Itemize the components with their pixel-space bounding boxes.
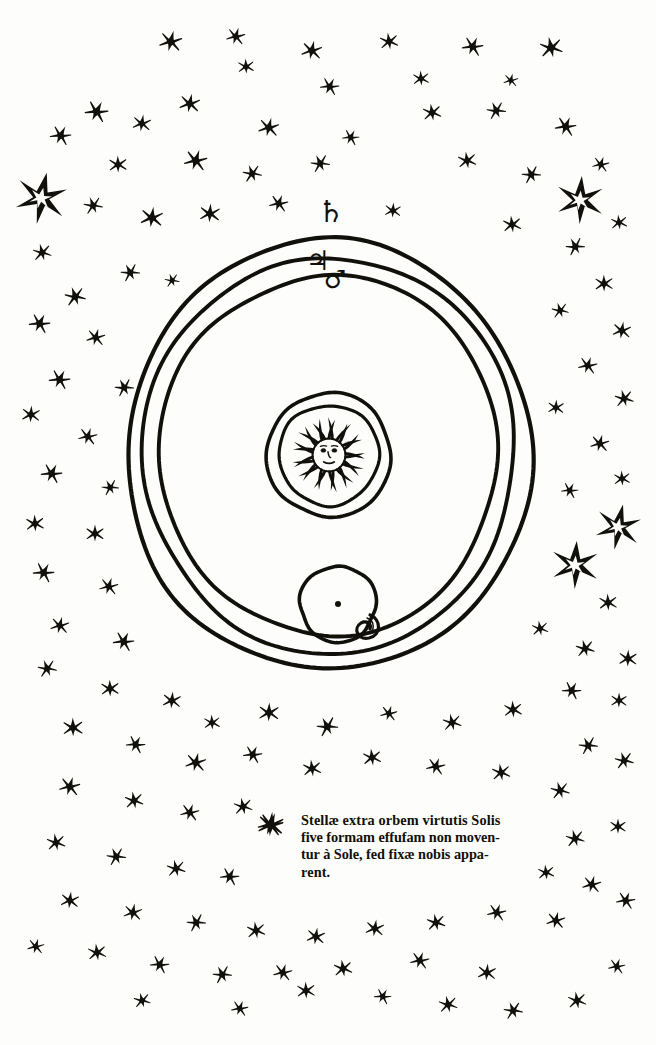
saturn-symbol: ♄	[318, 194, 345, 229]
star-small	[591, 154, 610, 173]
star-small	[211, 963, 234, 986]
star-small	[319, 75, 342, 98]
diagram-canvas: ♄♃♂	[0, 0, 656, 1045]
star-small	[611, 213, 628, 230]
star-small	[413, 70, 429, 86]
star-small	[204, 714, 220, 730]
star-small	[457, 150, 476, 169]
star-small	[549, 779, 570, 800]
star-small	[309, 152, 332, 175]
star-small	[133, 991, 152, 1010]
caption-line-2: five formam effufam non moven-	[301, 829, 537, 846]
star-small	[123, 902, 143, 922]
star-small	[438, 994, 458, 1014]
star-small	[163, 691, 181, 710]
star-small	[87, 942, 106, 961]
star-small	[550, 300, 569, 319]
star-small	[612, 320, 631, 340]
star-small	[567, 990, 587, 1010]
star-small	[230, 998, 250, 1018]
star-small	[185, 751, 208, 774]
star-small	[607, 956, 626, 975]
star-small	[619, 649, 636, 667]
star-small	[98, 575, 119, 596]
star-small	[503, 214, 522, 233]
star-small	[297, 981, 315, 999]
caption-text: Stellæ extra orbem virtutis Solis five f…	[301, 812, 537, 881]
star-small	[100, 477, 120, 497]
star-small	[132, 113, 151, 132]
star-small	[46, 832, 66, 852]
star-small	[219, 865, 242, 888]
star-small	[461, 33, 486, 58]
star-small	[26, 514, 44, 532]
star-small	[184, 910, 207, 933]
star-small	[599, 593, 617, 611]
star-small	[425, 755, 447, 777]
star-small	[478, 963, 496, 982]
orbit-jupiter	[142, 258, 514, 654]
star-small	[158, 28, 183, 53]
star-small	[268, 192, 290, 214]
star-small	[520, 162, 543, 185]
star-large	[592, 500, 645, 554]
star-small	[27, 937, 46, 956]
star-small	[32, 242, 53, 263]
star-small	[105, 845, 128, 868]
star-small	[124, 790, 144, 810]
planet-symbol-labels: ♄♃♂	[306, 194, 346, 294]
star-small	[565, 827, 586, 848]
star-small	[306, 926, 325, 946]
star-small	[486, 901, 508, 923]
star-small	[39, 460, 64, 486]
earth-center-dot	[335, 601, 341, 607]
star-small	[577, 354, 599, 376]
star-small	[577, 734, 600, 757]
planetary-orbit-circles	[128, 237, 533, 668]
star-small	[365, 918, 384, 937]
star-small	[61, 890, 80, 909]
star-small	[611, 692, 626, 707]
star-small	[341, 127, 361, 147]
star-small	[595, 274, 612, 291]
star-small	[50, 615, 71, 636]
star-small	[47, 366, 72, 392]
star-small	[83, 97, 111, 125]
star-large	[555, 174, 604, 225]
star-small	[124, 732, 147, 755]
star-small	[101, 679, 118, 697]
star-small	[63, 284, 87, 308]
star-small	[426, 912, 446, 932]
star-small	[77, 425, 99, 447]
star-small	[22, 405, 40, 423]
cosmological-plate: ♄♃♂ Stellæ extra orbem virtutis Solis fi…	[0, 0, 656, 1045]
star-small	[582, 874, 603, 895]
star-small	[560, 678, 583, 701]
star-small	[548, 399, 564, 415]
star-small	[166, 858, 186, 879]
star-small	[200, 203, 220, 223]
sun-figure	[266, 392, 391, 517]
star-small	[614, 470, 630, 486]
star-small	[87, 524, 104, 541]
star-small	[363, 747, 382, 766]
star-small	[613, 749, 635, 771]
star-small	[112, 375, 135, 398]
star-small	[504, 700, 522, 718]
star-small	[611, 818, 626, 833]
star-small	[563, 234, 586, 257]
star-small	[614, 387, 635, 408]
star-small	[163, 271, 180, 288]
star-small	[179, 92, 201, 114]
star-small	[385, 202, 401, 218]
star-small	[111, 628, 136, 653]
star-small	[86, 327, 107, 348]
caption-line-4: rent.	[301, 864, 537, 881]
star-small	[183, 147, 209, 173]
star-large	[11, 167, 71, 229]
star-small	[48, 122, 73, 147]
star-small	[590, 433, 611, 454]
star-small	[225, 25, 246, 46]
mars-symbol: ♂	[324, 265, 346, 294]
star-small	[575, 637, 596, 658]
